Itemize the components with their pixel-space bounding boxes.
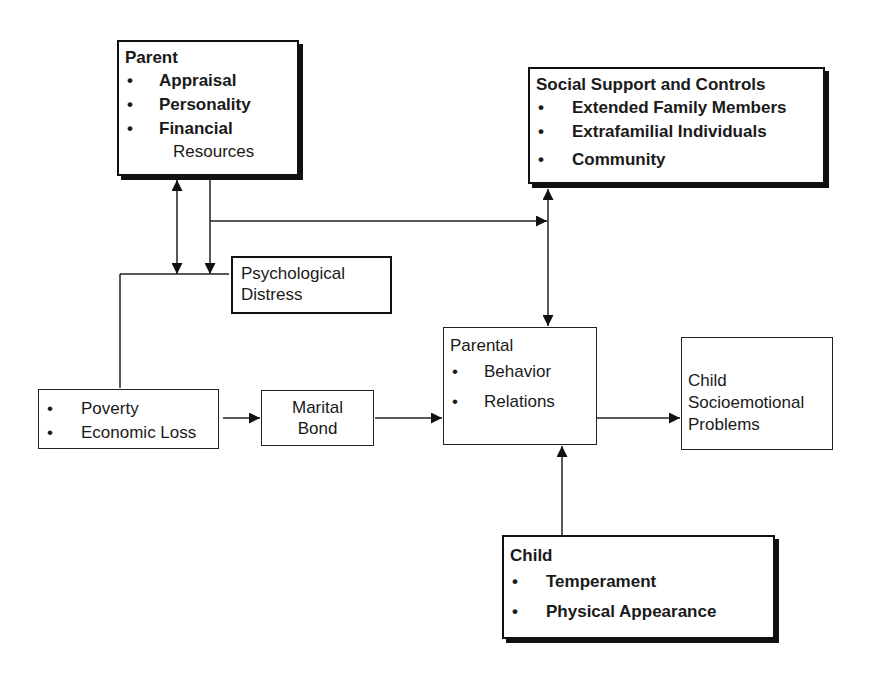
node-economic: •Poverty •Economic Loss xyxy=(38,389,219,449)
node-child-socioemotional-problems: Child Socioemotional Problems xyxy=(681,337,833,450)
node-marital-bond: Marital Bond xyxy=(261,390,374,446)
node-parental: Parental •Behavior •Relations xyxy=(443,327,597,445)
bullet-icon: • xyxy=(127,93,133,117)
bullet-icon: • xyxy=(452,357,458,387)
bullet-icon: • xyxy=(512,567,518,597)
list-item: •Temperament xyxy=(510,567,767,597)
list-item: •Community xyxy=(536,148,817,172)
bullet-icon: • xyxy=(452,387,458,417)
list-item: •Extended Family Members xyxy=(536,96,817,120)
bullet-icon: • xyxy=(512,597,518,627)
bullet-icon: • xyxy=(538,96,544,120)
bullet-icon: • xyxy=(127,117,133,141)
bullet-icon: • xyxy=(127,69,133,93)
list-item: •Financial xyxy=(125,117,291,141)
node-social-support: Social Support and Controls •Extended Fa… xyxy=(528,67,825,184)
node-parental-title: Parental xyxy=(450,335,590,357)
node-child-title: Child xyxy=(510,545,767,567)
node-social-support-title: Social Support and Controls xyxy=(536,74,817,96)
bullet-icon: • xyxy=(47,421,53,445)
list-item: •Physical Appearance xyxy=(510,597,767,627)
bullet-icon: • xyxy=(538,120,544,144)
list-item: •Personality xyxy=(125,93,291,117)
list-item: •Behavior xyxy=(450,357,590,387)
bullet-icon: • xyxy=(538,148,544,172)
list-item-continuation: Resources xyxy=(125,141,291,163)
node-psychological-distress: Psychological Distress xyxy=(231,256,392,314)
node-parent: Parent •Appraisal •Personality •Financia… xyxy=(117,40,299,176)
node-child: Child •Temperament •Physical Appearance xyxy=(502,535,775,639)
list-item: •Economic Loss xyxy=(45,421,212,445)
list-item: •Appraisal xyxy=(125,69,291,93)
bullet-icon: • xyxy=(47,397,53,421)
list-item: •Extrafamilial Individuals xyxy=(536,120,817,144)
list-item: •Poverty xyxy=(45,397,212,421)
node-parent-title: Parent xyxy=(125,47,291,69)
list-item: •Relations xyxy=(450,387,590,417)
